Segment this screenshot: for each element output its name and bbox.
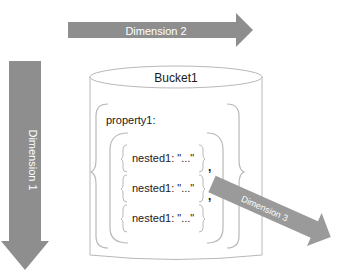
- nested-item-3: nested1: "...": [132, 212, 194, 224]
- nested-item-2: nested1: "...": [132, 182, 194, 194]
- dimension2-label: Dimension 2: [125, 25, 186, 37]
- dimension1-label: Dimension 1: [27, 129, 39, 190]
- dimension3-arrow: Dimension 3: [205, 168, 338, 254]
- property-label: property1:: [106, 114, 156, 126]
- nested-item-1: nested1: "...": [132, 152, 194, 164]
- dimension1-arrow: Dimension 1: [1, 61, 49, 270]
- separator-comma-1: ,: [208, 160, 211, 174]
- diagram-canvas: Dimension 2 Dimension 1 Bucket1 property…: [0, 0, 340, 274]
- bucket-label: Bucket1: [154, 71, 198, 85]
- dimension2-arrow: Dimension 2: [68, 13, 253, 47]
